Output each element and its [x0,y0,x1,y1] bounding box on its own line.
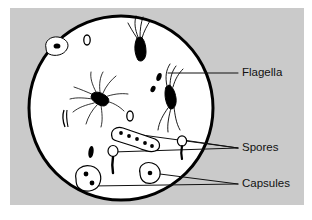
label-capsules: Capsules [242,177,290,189]
label-spores: Spores [242,141,279,153]
specimen-capsule-lower-right [140,163,161,184]
label-flagella: Flagella [242,66,283,78]
specimen-free-spore-upper [84,35,90,45]
specimen-free-spore-middle [127,111,133,121]
figure-drawing: Flagella Spores Capsules [0,0,312,220]
specimen-capsule-double-lower-left [76,166,101,192]
specimen-capsule-upper-left [46,37,68,56]
microscope-figure-root: Flagella Spores Capsules [0,0,312,220]
